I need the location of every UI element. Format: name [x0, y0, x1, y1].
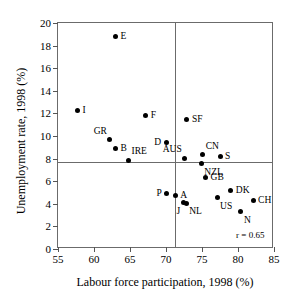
- x-tick-label: 60: [89, 254, 100, 265]
- y-axis-title: Unemployment rate, 1998 (%): [15, 28, 27, 254]
- data-point-n: [238, 209, 243, 214]
- correlation-annotation: r = 0.65: [236, 230, 264, 239]
- y-tick-mark: [53, 226, 58, 227]
- data-point-gb: [203, 175, 208, 180]
- data-point-label-gr: GR: [94, 127, 107, 137]
- data-point-p: [164, 191, 169, 196]
- y-tick-label: 12: [40, 108, 51, 119]
- data-point-label-dk: DK: [236, 186, 250, 196]
- data-point-f: [143, 113, 148, 118]
- scatter-chart: 02468101214161820 55606570758085 IGRBEIR…: [0, 0, 303, 302]
- data-point-ch: [251, 198, 256, 203]
- y-tick-mark: [53, 23, 58, 24]
- x-tick-label: 85: [269, 254, 280, 265]
- y-tick-mark: [53, 46, 58, 47]
- y-tick-mark: [53, 159, 58, 160]
- data-point-nzl: [199, 161, 204, 166]
- data-point-nl: [184, 201, 189, 206]
- data-point-e: [113, 34, 118, 39]
- y-tick-label: 4: [46, 198, 52, 209]
- data-point-label-f: F: [151, 111, 156, 121]
- data-point-label-e: E: [121, 32, 127, 42]
- data-point-a: [173, 193, 178, 198]
- data-point-label-s: S: [225, 152, 230, 162]
- y-tick-label: 2: [46, 221, 52, 232]
- data-point-dk: [228, 188, 233, 193]
- y-tick-mark: [53, 181, 58, 182]
- data-point-label-j: J: [177, 207, 181, 217]
- x-axis-title: Labour force participation, 1998 (%): [57, 276, 273, 288]
- x-tick-mark: [94, 247, 95, 252]
- x-tick-mark: [274, 247, 275, 252]
- x-tick-mark: [238, 247, 239, 252]
- y-tick-label: 6: [46, 176, 52, 187]
- x-tick-label: 80: [233, 254, 244, 265]
- data-point-label-d: D: [154, 138, 161, 148]
- x-tick-label: 75: [197, 254, 208, 265]
- data-point-sf: [184, 117, 189, 122]
- y-tick-label: 10: [40, 131, 51, 142]
- data-point-label-n: N: [244, 216, 251, 226]
- y-tick-label: 20: [40, 18, 51, 29]
- data-point-label-sf: SF: [192, 115, 203, 125]
- x-tick-mark: [130, 247, 131, 252]
- y-tick-label: 0: [46, 244, 52, 255]
- data-point-b: [113, 146, 118, 151]
- data-point-aus: [182, 156, 187, 161]
- data-point-label-i: I: [82, 106, 85, 116]
- data-point-us: [215, 195, 220, 200]
- data-point-label-cn: CN: [206, 142, 219, 152]
- reference-line-horizontal: [58, 162, 272, 163]
- y-tick-mark: [53, 68, 58, 69]
- x-tick-label: 55: [53, 254, 64, 265]
- y-tick-mark: [53, 136, 58, 137]
- data-point-label-aus: AUS: [163, 145, 182, 155]
- y-tick-label: 14: [40, 85, 51, 96]
- data-point-label-us: US: [220, 202, 232, 212]
- y-tick-mark: [53, 91, 58, 92]
- data-point-label-ch: CH: [258, 196, 271, 206]
- data-point-label-ire: IRE: [132, 147, 147, 157]
- data-point-label-gb: GB: [211, 173, 224, 183]
- x-tick-label: 70: [161, 254, 172, 265]
- y-tick-mark: [53, 113, 58, 114]
- y-tick-label: 8: [46, 153, 52, 164]
- data-point-label-b: B: [121, 144, 127, 154]
- data-point-gr: [107, 137, 112, 142]
- y-tick-label: 18: [40, 40, 51, 51]
- data-point-label-p: P: [156, 189, 161, 199]
- data-point-cn: [200, 152, 205, 157]
- y-tick-label: 16: [40, 63, 51, 74]
- x-tick-mark: [202, 247, 203, 252]
- x-tick-mark: [166, 247, 167, 252]
- data-point-s: [218, 154, 223, 159]
- x-tick-label: 65: [125, 254, 136, 265]
- y-tick-mark: [53, 204, 58, 205]
- data-point-label-nl: NL: [189, 207, 202, 217]
- data-point-i: [75, 108, 80, 113]
- plot-area: 02468101214161820 55606570758085 IGRBEIR…: [57, 22, 273, 248]
- x-tick-mark: [58, 247, 59, 252]
- data-point-ire: [126, 158, 131, 163]
